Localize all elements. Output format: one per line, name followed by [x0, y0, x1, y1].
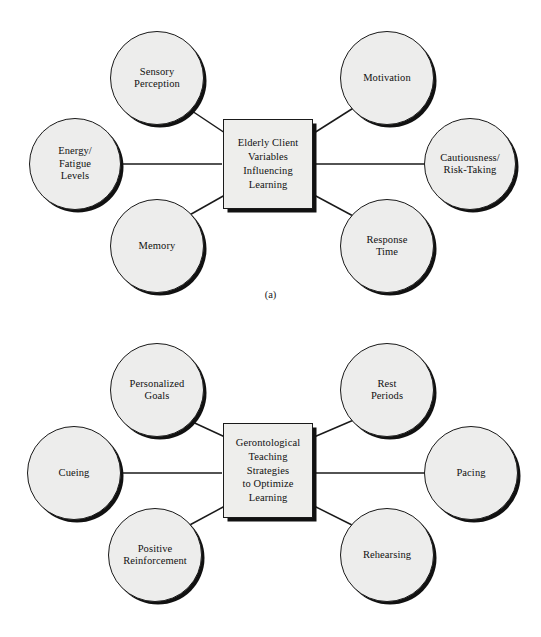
- caption-a: (a): [0, 289, 541, 300]
- node-label-sensory-perception: SensoryPerception: [130, 66, 184, 91]
- edge-sensory-perception-to-center: [186, 107, 225, 133]
- node-cautiousness-risk-taking: Cautiousness/Risk-Taking: [424, 118, 516, 210]
- node-label-pacing: Pacing: [452, 467, 489, 479]
- center-node-elderly-client-variables: Elderly ClientVariablesInfluencingLearni…: [223, 119, 313, 209]
- node-label-cueing: Cueing: [55, 467, 94, 479]
- node-memory: Memory: [110, 199, 204, 293]
- node-positive-reinforcement: PositiveReinforcement: [108, 508, 202, 602]
- edge-rest-periods-to-center: [314, 419, 356, 437]
- center-node-label-gerontological-teaching-strategies: GerontologicalTeachingStrategiesto Optim…: [232, 436, 304, 505]
- diagram-a-stage: SensoryPerceptionMotivationEnergy/Fatigu…: [0, 0, 541, 318]
- node-sensory-perception: SensoryPerception: [110, 31, 204, 125]
- edge-positive-reinforcement-to-center: [186, 506, 225, 527]
- diagram-b-stage: PersonalizedGoalsRestPeriodsCueingPacing…: [0, 318, 541, 637]
- figure-page: SensoryPerceptionMotivationEnergy/Fatigu…: [0, 0, 541, 637]
- edge-rehearsing-to-center: [314, 506, 356, 527]
- node-motivation: Motivation: [340, 31, 434, 125]
- node-label-energy-fatigue-levels: Energy/FatigueLevels: [54, 145, 96, 182]
- node-personalized-goals: PersonalizedGoals: [110, 343, 204, 437]
- node-label-motivation: Motivation: [359, 72, 415, 84]
- center-node-label-elderly-client-variables: Elderly ClientVariablesInfluencingLearni…: [234, 136, 303, 191]
- node-energy-fatigue-levels: Energy/FatigueLevels: [29, 118, 121, 210]
- node-label-personalized-goals: PersonalizedGoals: [126, 378, 189, 403]
- node-label-positive-reinforcement: PositiveReinforcement: [119, 543, 191, 568]
- edge-personalized-goals-to-center: [186, 419, 225, 437]
- node-response-time: ResponseTime: [340, 199, 434, 293]
- node-label-response-time: ResponseTime: [362, 234, 411, 259]
- node-pacing: Pacing: [424, 426, 518, 520]
- node-label-rest-periods: RestPeriods: [367, 378, 407, 403]
- node-label-cautiousness-risk-taking: Cautiousness/Risk-Taking: [436, 152, 504, 177]
- node-rehearsing: Rehearsing: [340, 508, 434, 602]
- node-cueing: Cueing: [27, 426, 121, 520]
- edge-motivation-to-center: [314, 107, 355, 133]
- node-rest-periods: RestPeriods: [340, 343, 434, 437]
- edge-response-time-to-center: [314, 195, 355, 217]
- diagram-b: PersonalizedGoalsRestPeriodsCueingPacing…: [0, 318, 541, 637]
- center-node-gerontological-teaching-strategies: GerontologicalTeachingStrategiesto Optim…: [223, 423, 313, 518]
- node-label-rehearsing: Rehearsing: [359, 549, 415, 561]
- diagram-a: SensoryPerceptionMotivationEnergy/Fatigu…: [0, 0, 541, 318]
- node-label-memory: Memory: [135, 240, 180, 252]
